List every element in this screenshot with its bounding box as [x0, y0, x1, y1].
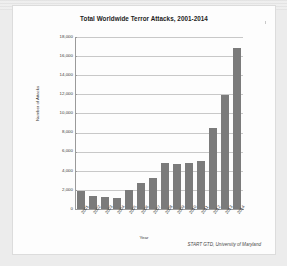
y-axis-tick-mark [75, 37, 77, 38]
y-axis-tick-mark [75, 113, 77, 114]
grid-line [75, 171, 243, 172]
x-axis-tick-labels: 2001200220032004200520062007200820092010… [75, 210, 244, 234]
grid-line [75, 56, 243, 57]
y-axis-tick-mark [75, 209, 77, 210]
y-axis-tick-label: 16,000 [35, 54, 73, 58]
chart-title: Total Worldwide Terror Attacks, 2001-201… [13, 15, 275, 23]
y-axis-tick-label: 12,000 [35, 92, 73, 96]
grid-line [75, 190, 243, 191]
y-axis-tick-label: 2,000 [35, 188, 73, 192]
x-axis-title: Year [13, 235, 275, 240]
y-axis-tick-label: 4,000 [35, 169, 73, 173]
bar-2013 [221, 95, 229, 209]
grid-line [75, 75, 243, 76]
y-axis-tick-mark [75, 94, 77, 95]
grid-line [75, 113, 243, 114]
y-axis-tick-mark [75, 75, 77, 76]
y-axis-tick-mark [75, 133, 77, 134]
y-axis-tick-labels: 02,0004,0006,0008,00010,00012,00014,0001… [31, 37, 73, 209]
y-axis-tick-label: 0 [35, 207, 73, 211]
y-axis-tick-label: 8,000 [35, 130, 73, 134]
grid-line [75, 37, 243, 38]
grid-line [75, 94, 243, 95]
y-axis-tick-label: 14,000 [35, 73, 73, 77]
scanned-page: Total Worldwide Terror Attacks, 2001-201… [0, 0, 287, 266]
chart-figure-card: Total Worldwide Terror Attacks, 2001-201… [13, 6, 275, 254]
y-axis-tick-mark [75, 171, 77, 172]
y-axis-tick-mark [75, 56, 77, 57]
plot-area [75, 37, 243, 209]
y-axis-tick-mark [75, 190, 77, 191]
grid-line [75, 152, 243, 153]
y-axis-tick-label: 10,000 [35, 111, 73, 115]
bar-2014 [233, 48, 241, 209]
grid-line [75, 133, 243, 134]
y-axis-tick-label: 6,000 [35, 149, 73, 153]
y-axis-tick-mark [75, 152, 77, 153]
source-attribution: START GTD, University of Maryland [187, 242, 261, 247]
y-axis-tick-label: 18,000 [35, 35, 73, 39]
